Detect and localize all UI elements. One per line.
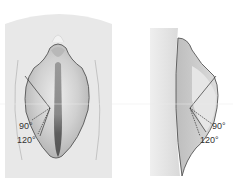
angle-label-90-right: 90° — [212, 122, 226, 131]
anatomical-diagram — [0, 0, 233, 184]
frontal-view — [5, 14, 112, 178]
angle-label-120-left: 120° — [17, 136, 36, 145]
lateral-view — [150, 28, 218, 176]
angle-label-120-right: 120° — [200, 136, 219, 145]
angle-label-90-left: 90° — [19, 122, 33, 131]
central-dark-strip — [54, 62, 62, 157]
